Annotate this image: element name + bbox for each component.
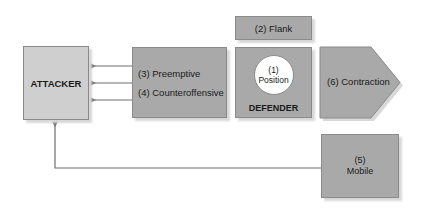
attacker-box: ATTACKER: [23, 46, 89, 120]
preemptive-counteroffensive-box: (3) Preemptive (4) Counteroffensive: [132, 47, 227, 118]
counteroffensive-label: (4) Counteroffensive: [138, 83, 224, 102]
preemptive-label: (3) Preemptive: [138, 64, 200, 83]
mobile-label: Mobile: [347, 166, 374, 177]
position-number: (1): [268, 65, 278, 75]
flank-label: (2) Flank: [255, 23, 292, 34]
position-circle: (1) Position: [254, 55, 294, 95]
contraction-label: (6) Contraction: [327, 76, 390, 87]
defender-box: (1) Position DEFENDER: [235, 47, 312, 118]
flank-box: (2) Flank: [235, 16, 312, 40]
mobile-number: (5): [355, 155, 366, 166]
attacker-label: ATTACKER: [31, 78, 82, 89]
arrow-mobile: [55, 126, 321, 168]
position-label: Position: [258, 75, 288, 85]
defender-label: DEFENDER: [249, 103, 299, 113]
mobile-box: (5) Mobile: [321, 134, 399, 198]
